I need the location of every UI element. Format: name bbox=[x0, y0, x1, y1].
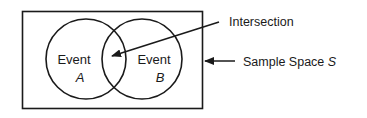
event-a-symbol: A bbox=[75, 70, 85, 85]
event-a-label: Event bbox=[57, 52, 91, 67]
sample-space-rectangle bbox=[23, 12, 203, 109]
intersection-label: Intersection bbox=[229, 15, 294, 29]
event-b-label: Event bbox=[137, 52, 171, 67]
sample-space-label: Sample Space S bbox=[243, 55, 337, 69]
venn-diagram: Event A Event B Intersection Sample Spac… bbox=[0, 0, 367, 118]
sample-space-symbol: S bbox=[328, 55, 337, 69]
event-b-symbol: B bbox=[156, 70, 165, 85]
sample-space-label-text: Sample Space bbox=[243, 55, 328, 69]
